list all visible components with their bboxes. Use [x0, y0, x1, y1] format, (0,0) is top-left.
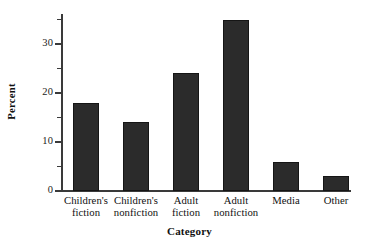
- y-tick-major: [55, 141, 62, 142]
- bar-chart: 0102030 Children'sfictionChildren'snonfi…: [0, 0, 379, 248]
- x-tick-label-line2: nonfiction: [192, 206, 280, 218]
- y-tick-label: 30: [13, 37, 53, 48]
- y-axis-title: Percent: [6, 62, 17, 142]
- x-tick-label: Other: [292, 194, 379, 206]
- bar: [73, 103, 99, 191]
- bar: [273, 162, 299, 191]
- bar: [323, 176, 349, 191]
- bar: [173, 73, 199, 191]
- x-axis-title: Category: [0, 225, 379, 237]
- y-tick-major: [55, 92, 62, 93]
- bar: [123, 122, 149, 191]
- y-tick-major: [55, 43, 62, 44]
- bar: [223, 20, 249, 192]
- y-tick-label: 10: [13, 135, 53, 146]
- plot-area: [62, 14, 350, 191]
- y-tick-label: 20: [13, 86, 53, 97]
- y-tick-major: [55, 190, 62, 191]
- x-tick-label-line1: Other: [324, 194, 349, 206]
